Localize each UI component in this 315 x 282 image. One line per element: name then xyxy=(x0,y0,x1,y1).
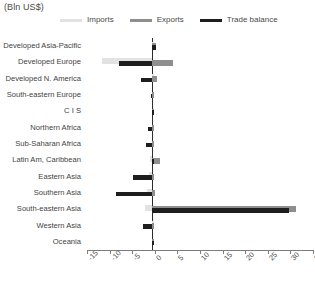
bar-balance xyxy=(152,241,154,246)
legend-item-exports: Exports xyxy=(130,16,184,24)
category-label: South-eastern Asia xyxy=(17,205,81,213)
legend-label: Trade balance xyxy=(227,16,278,24)
chart-units-title: (Bln US$) xyxy=(4,2,44,12)
bar-balance xyxy=(119,61,152,66)
category-label: Northern Africa xyxy=(30,124,81,132)
category-label: Southern Asia xyxy=(34,189,81,197)
category-label: Developed Europe xyxy=(18,58,81,66)
bar-balance xyxy=(152,208,289,213)
category-label: Oceania xyxy=(53,238,81,246)
legend-item-imports: Imports xyxy=(60,16,114,24)
legend-label: Exports xyxy=(157,16,184,24)
category-label: Eastern Asia xyxy=(38,173,81,181)
bar-balance xyxy=(152,159,154,164)
category-label: Developed Asia-Pacific xyxy=(3,42,81,50)
x-tick-label: 5 xyxy=(176,253,185,262)
x-tick-label: -5 xyxy=(131,251,142,262)
category-label: South-eastern Europe xyxy=(7,91,81,99)
trade-balance-chart: (Bln US$) ImportsExportsTrade balance De… xyxy=(0,0,315,282)
bar-exports xyxy=(152,223,154,229)
legend-swatch-icon xyxy=(200,19,222,22)
category-label: Latin Am, Caribbean xyxy=(12,156,81,164)
bar-exports xyxy=(152,60,173,66)
bar-balance xyxy=(133,175,152,180)
bar-exports xyxy=(152,125,154,131)
x-tick-label: 0 xyxy=(154,253,163,262)
bar-imports xyxy=(145,205,152,211)
bar-balance xyxy=(116,192,152,197)
category-label: Sub-Saharan Africa xyxy=(15,140,81,148)
bar-balance xyxy=(152,110,154,115)
bar-balance xyxy=(148,127,152,132)
bar-exports xyxy=(152,190,155,196)
x-tick-label: 30 xyxy=(289,250,301,262)
bar-balance xyxy=(152,45,156,50)
bar-balance xyxy=(151,94,153,99)
legend-label: Imports xyxy=(87,16,114,24)
bar-exports xyxy=(152,174,154,180)
category-label: Developed N. America xyxy=(5,75,81,83)
bar-balance xyxy=(141,78,152,83)
bar-balance xyxy=(143,224,152,229)
bar-exports xyxy=(152,141,154,147)
category-axis-labels: Developed Asia-PacificDeveloped EuropeDe… xyxy=(0,38,84,250)
chart-legend: ImportsExportsTrade balance xyxy=(60,14,312,26)
bar-exports xyxy=(152,76,157,82)
category-label: C I S xyxy=(64,107,81,115)
legend-item-trade-balance: Trade balance xyxy=(200,16,278,24)
category-label: Western Asia xyxy=(36,222,81,230)
bar-exports xyxy=(152,92,154,98)
legend-swatch-icon xyxy=(130,19,152,22)
bar-balance xyxy=(146,143,152,148)
plot-area xyxy=(87,38,313,250)
legend-swatch-icon xyxy=(60,19,82,22)
